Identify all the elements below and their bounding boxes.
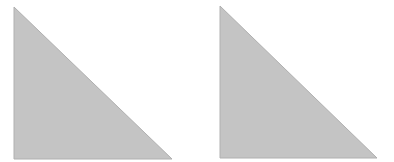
left-triangle (14, 7, 172, 159)
diagram-canvas (0, 0, 394, 162)
right-triangle (220, 6, 377, 158)
